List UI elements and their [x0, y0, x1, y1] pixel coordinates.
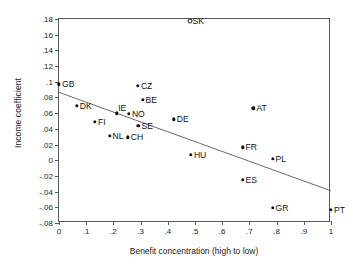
x-axis-tick-label: .5 [192, 227, 199, 236]
x-axis-tick-label: 1 [329, 227, 333, 236]
y-axis-tick-label: .18 [42, 15, 53, 24]
data-point-label: AT [256, 103, 266, 113]
data-point-label: ES [246, 175, 257, 185]
y-axis-tick-label: -.06 [39, 203, 53, 212]
data-point-marker[interactable] [329, 208, 332, 211]
y-axis-tick-label: .08 [42, 93, 53, 102]
x-axis-tick-label: .8 [273, 227, 280, 236]
y-axis-tick-label: -.02 [39, 171, 53, 180]
x-axis-tick-label: .4 [164, 227, 171, 236]
y-axis-tick [55, 145, 59, 146]
y-axis-tick-label: .16 [42, 30, 53, 39]
x-axis-tick [168, 221, 169, 225]
y-axis-tick-label: .06 [42, 109, 53, 118]
y-axis-tick-label: .12 [42, 62, 53, 71]
y-axis-tick [55, 207, 59, 208]
x-axis-tick [86, 221, 87, 225]
x-axis-tick-label: .9 [300, 227, 307, 236]
x-axis-title: Benefit concentration (high to low) [58, 246, 330, 256]
x-axis-tick [222, 221, 223, 225]
data-point-label: NL [113, 131, 124, 141]
data-point-label: PT [334, 205, 345, 215]
y-axis-tick [55, 66, 59, 67]
data-point-label: NO [132, 109, 145, 119]
data-point-label: CZ [141, 81, 152, 91]
plot-area: .18.16.14.12.1.08.06.04.020-.02-.04-.06-… [58, 18, 330, 222]
y-axis-tick [55, 113, 59, 114]
y-axis-tick [55, 35, 59, 36]
y-axis-tick [55, 19, 59, 20]
x-axis-tick-label: 0 [57, 227, 61, 236]
x-axis-tick [59, 221, 60, 225]
data-point-label: CH [131, 132, 143, 142]
x-axis-tick [277, 221, 278, 225]
y-axis-tick-label: .14 [42, 46, 53, 55]
y-axis-tick [55, 129, 59, 130]
y-axis-tick [55, 160, 59, 161]
data-point-label: BE [146, 95, 157, 105]
x-axis-tick-label: .6 [219, 227, 226, 236]
y-axis-title: Income coefficient [13, 33, 23, 193]
x-axis-tick [304, 221, 305, 225]
data-point-label: FI [98, 117, 106, 127]
y-axis-tick-label: -.08 [39, 219, 53, 228]
x-axis-tick [141, 221, 142, 225]
y-axis-tick-label: .02 [42, 140, 53, 149]
x-axis-tick-label: .3 [137, 227, 144, 236]
y-axis-tick [55, 176, 59, 177]
x-axis-tick-label: .1 [83, 227, 90, 236]
data-point-label: DK [80, 101, 92, 111]
y-axis-tick-label: .04 [42, 124, 53, 133]
data-point-label: HU [194, 150, 206, 160]
y-axis-tick-label: 0 [49, 156, 53, 165]
x-axis-tick-label: .2 [110, 227, 117, 236]
data-point-label: DE [177, 114, 189, 124]
scatter-plot-figure: Income coefficient .18.16.14.12.1.08.06.… [0, 0, 353, 265]
data-point-label: PL [276, 154, 287, 164]
x-axis-tick [331, 221, 332, 225]
x-axis-tick-label: .7 [246, 227, 253, 236]
data-point-label: IE [118, 103, 126, 113]
data-point-label: GR [276, 203, 289, 213]
y-axis-tick [55, 192, 59, 193]
y-axis-tick-label: -.04 [39, 187, 53, 196]
y-axis-tick [55, 50, 59, 51]
x-axis-tick [195, 221, 196, 225]
x-axis-tick [249, 221, 250, 225]
data-point-label: FR [246, 142, 257, 152]
data-point-marker[interactable] [187, 19, 192, 24]
y-axis-tick [55, 97, 59, 98]
data-point-label: SE [141, 121, 152, 131]
data-point-label: GB [62, 79, 74, 89]
data-point-label: SK [193, 16, 204, 26]
y-axis-tick-label: .1 [46, 77, 53, 86]
x-axis-tick [113, 221, 114, 225]
